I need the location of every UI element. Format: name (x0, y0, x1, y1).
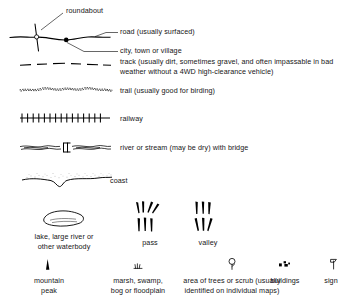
legend-label-lake-line2: other waterbody (4, 242, 124, 251)
legend-label-mountain-peak-line1: mountain (6, 276, 92, 285)
legend-label-track-line1: track (usually dirt, sometimes gravel, a… (120, 57, 333, 66)
legend-label-track-line2: weather without a 4WD high-clearance veh… (120, 67, 273, 76)
legend-label-pass: pass (118, 238, 182, 247)
legend-label-lake-line1: lake, large river or (4, 232, 124, 241)
symbol-valley-chevrons (188, 200, 228, 238)
symbol-lake-waterbody (36, 206, 92, 232)
symbol-buildings-blocks (276, 258, 294, 272)
legend-label-buildings: buildings (256, 276, 314, 285)
symbol-coast-stippled (18, 168, 118, 194)
legend-label-river: river or stream (may be dry) with bridge (120, 143, 248, 152)
callout-label-road: road (usually surfaced) (120, 27, 195, 36)
legend-label-valley: valley (176, 238, 240, 247)
symbol-tree-glyph (224, 256, 240, 274)
legend-label-trees-line2: identified on individual maps) (146, 286, 318, 295)
symbol-pass-chevrons (130, 200, 170, 238)
symbol-track-dashed-line (18, 56, 114, 70)
symbol-signpost (327, 257, 341, 273)
map-legend: roundabout road (usually surfaced) city,… (0, 0, 354, 306)
symbol-trail-dotted-line (18, 82, 114, 96)
symbol-mountain-peak (40, 258, 56, 274)
legend-label-coast: coast (110, 176, 128, 185)
legend-label-mountain-peak-line2: peak (6, 286, 92, 295)
symbol-railway-hatched-line (18, 110, 114, 126)
legend-label-trail: trail (usually good for birding) (120, 86, 215, 95)
symbol-marsh-tuft (130, 258, 146, 274)
symbol-river-with-bridge (18, 138, 114, 158)
legend-label-railway: railway (120, 114, 143, 123)
legend-label-sign: sign (310, 276, 352, 285)
callout-label-city: city, town or village (120, 46, 182, 55)
